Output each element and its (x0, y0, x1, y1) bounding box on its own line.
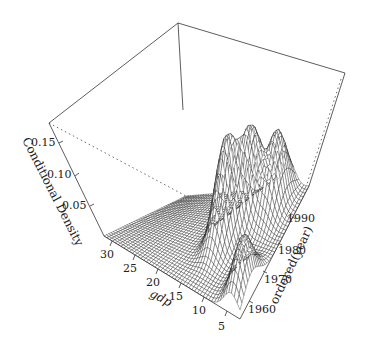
x-tick-label: 10 (192, 304, 206, 317)
surface-plot: 0.15 0.10 0.05 Conditional Density 30 25… (0, 0, 365, 349)
x-tick-label: 25 (123, 262, 137, 275)
y-tick-label: 1960 (248, 303, 276, 316)
x-tick-label: 30 (100, 248, 114, 261)
z-axis-title: Conditional Density (19, 135, 86, 249)
y-tick-label: 1990 (287, 212, 315, 225)
x-tick-label: 5 (218, 320, 225, 333)
